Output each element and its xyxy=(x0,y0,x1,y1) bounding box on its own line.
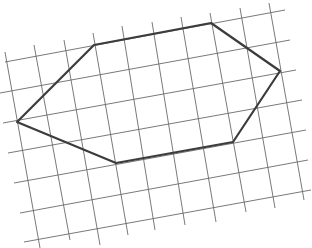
grid-vertical-line-5 xyxy=(122,26,155,230)
grid-vertical-line-4 xyxy=(93,33,128,235)
grid-vertical-line-6 xyxy=(152,22,185,225)
grid-vertical-line-10 xyxy=(269,3,304,200)
grid-vertical-lines xyxy=(5,3,304,248)
grid-vertical-line-1 xyxy=(5,52,40,248)
diagram-canvas xyxy=(0,0,312,248)
grid-vertical-line-9 xyxy=(240,8,275,208)
grid-hexagon-figure xyxy=(0,0,312,248)
grid-horizontal-line-7 xyxy=(24,190,311,242)
grid-vertical-line-7 xyxy=(181,17,216,222)
